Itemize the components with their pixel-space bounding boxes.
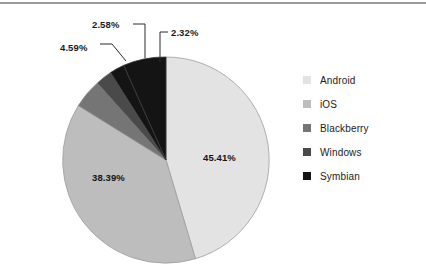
slice-value-label-android: 45.41% — [203, 152, 236, 163]
legend-label-android: Android — [320, 75, 356, 86]
legend-item-android[interactable]: Android — [303, 68, 421, 92]
chart-legend: Android iOS Blackberry Windows Symbian — [303, 68, 421, 188]
callout-label-windows: 2.58% — [92, 19, 119, 30]
pie-chart-figure: 4.59% 2.58% 2.32% 45.41% 38.39% Android … — [0, 0, 426, 277]
legend-item-symbian[interactable]: Symbian — [303, 164, 421, 188]
legend-swatch-icon-symbian — [303, 172, 311, 180]
leader-line-windows — [133, 24, 145, 58]
callout-label-blackberry: 4.59% — [60, 42, 87, 53]
callout-label-symbian: 2.32% — [171, 27, 198, 38]
legend-item-ios[interactable]: iOS — [303, 92, 421, 116]
slice-value-label-ios: 38.39% — [92, 172, 125, 183]
pie-svg — [0, 4, 300, 277]
legend-swatch-icon-windows — [303, 148, 311, 156]
pie-plot-area: 4.59% 2.58% 2.32% 45.41% 38.39% — [0, 4, 300, 277]
legend-label-blackberry: Blackberry — [320, 123, 369, 134]
legend-label-windows: Windows — [320, 147, 362, 158]
legend-swatch-icon-android — [303, 76, 311, 84]
legend-label-ios: iOS — [320, 99, 337, 110]
legend-label-symbian: Symbian — [320, 171, 360, 182]
pie-slices — [63, 57, 270, 263]
legend-item-windows[interactable]: Windows — [303, 140, 421, 164]
legend-swatch-icon-blackberry — [303, 124, 311, 132]
leader-line-blackberry — [100, 44, 126, 61]
legend-item-blackberry[interactable]: Blackberry — [303, 116, 421, 140]
legend-swatch-icon-ios — [303, 100, 311, 108]
